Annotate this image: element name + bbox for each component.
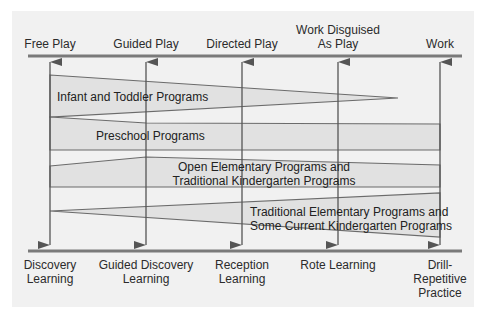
top-label-work-disguised-line1: Work Disguised	[288, 23, 388, 37]
bottom-label-rote-learning: Rote Learning	[288, 258, 388, 272]
bottom-label-4-line1: Drill-	[405, 258, 475, 272]
band-label-open-elementary-line1: Open Elementary Programs and	[164, 160, 364, 174]
bottom-label-reception-learning: Reception Learning	[202, 258, 282, 286]
bottom-label-drill-repetitive-practice: Drill- Repetitive Practice	[405, 258, 475, 300]
top-label-directed-play: Directed Play	[202, 37, 282, 51]
bottom-label-guided-discovery-learning: Guided Discovery Learning	[96, 258, 196, 286]
bottom-label-3-line1: Rote Learning	[288, 258, 388, 272]
top-label-work-disguised-line2: As Play	[288, 37, 388, 51]
top-label-work-disguised: Work Disguised As Play	[288, 23, 388, 51]
band-label-preschool: Preschool Programs	[96, 129, 205, 143]
bottom-label-0-line2: Learning	[15, 272, 85, 286]
bottom-label-4-line3: Practice	[405, 286, 475, 300]
bottom-label-0-line1: Discovery	[15, 258, 85, 272]
top-label-free-play: Free Play	[20, 37, 80, 51]
band-label-infant-toddler: Infant and Toddler Programs	[57, 90, 208, 104]
band-label-traditional-elementary-line1: Traditional Elementary Programs and	[250, 205, 440, 219]
top-label-work: Work	[415, 37, 465, 51]
bottom-label-2-line1: Reception	[202, 258, 282, 272]
bottom-label-1-line2: Learning	[96, 272, 196, 286]
band-label-traditional-elementary-line2: Some Current Kindergarten Programs	[250, 219, 440, 233]
bottom-label-1-line1: Guided Discovery	[96, 258, 196, 272]
band-label-traditional-elementary: Traditional Elementary Programs and Some…	[250, 205, 440, 233]
bottom-label-2-line2: Learning	[202, 272, 282, 286]
band-label-open-elementary: Open Elementary Programs and Traditional…	[164, 160, 364, 188]
band-label-open-elementary-line2: Traditional Kindergarten Programs	[164, 174, 364, 188]
bottom-label-4-line2: Repetitive	[405, 272, 475, 286]
bottom-label-discovery-learning: Discovery Learning	[15, 258, 85, 286]
top-label-guided-play: Guided Play	[106, 37, 186, 51]
